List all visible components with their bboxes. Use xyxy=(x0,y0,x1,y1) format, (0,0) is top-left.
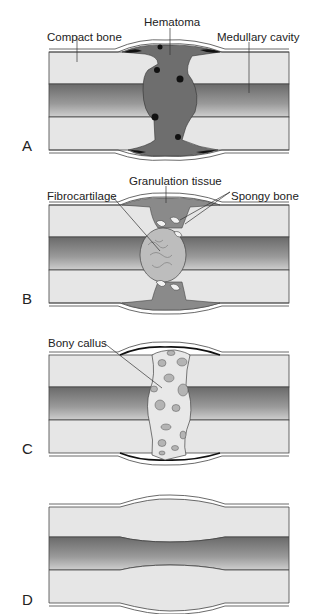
label-bony-callus: Bony callus xyxy=(48,337,107,350)
panel-letter-d: D xyxy=(22,591,33,608)
panel-letter-a: A xyxy=(22,137,32,154)
panel-letter-c: C xyxy=(22,440,33,457)
label-fibrocartilage: Fibrocartilage xyxy=(47,190,117,203)
panel-c xyxy=(49,342,289,465)
panel-d xyxy=(49,495,289,614)
label-medullary-cavity: Medullary cavity xyxy=(217,31,299,44)
label-spongy-bone: Spongy bone xyxy=(231,190,299,203)
panel-b xyxy=(49,186,289,314)
panel-a xyxy=(49,28,289,160)
fracture-healing-diagram xyxy=(0,0,310,614)
label-granulation-tissue: Granulation tissue xyxy=(129,175,222,188)
label-hematoma: Hematoma xyxy=(144,16,200,29)
label-compact-bone: Compact bone xyxy=(47,31,122,44)
panel-letter-b: B xyxy=(22,290,32,307)
